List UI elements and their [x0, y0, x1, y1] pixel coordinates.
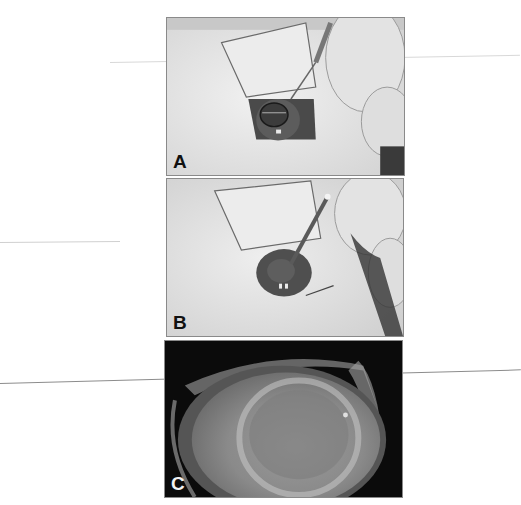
panel-label: C — [171, 474, 185, 493]
figure-panel-b: B — [166, 178, 404, 337]
panel-b-photo — [167, 179, 403, 336]
panel-label: B — [173, 313, 187, 332]
panel-c-photo — [165, 341, 402, 497]
figure-panel-c: C — [164, 340, 403, 498]
panel-a-photo — [167, 18, 404, 175]
figure-panel-a: A — [166, 17, 405, 176]
scan-line — [0, 241, 120, 243]
panel-label: A — [173, 152, 187, 171]
